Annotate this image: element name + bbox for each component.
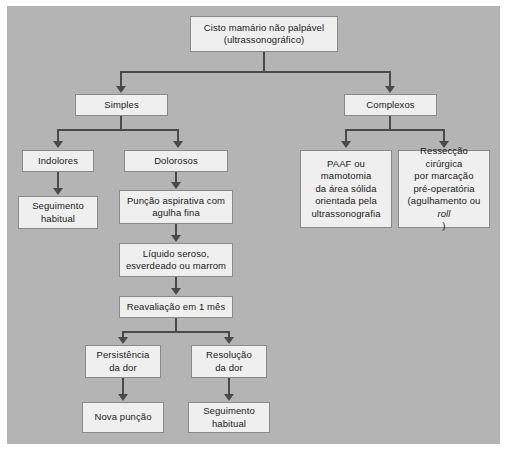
node-line: Líquido seroso, bbox=[123, 248, 229, 261]
node-line: Indolores bbox=[26, 155, 90, 168]
connector-reavaliacao-bus bbox=[122, 331, 230, 333]
node-line: Resolução bbox=[195, 349, 263, 362]
node-persistencia-da-dor: Persistência da dor bbox=[85, 345, 161, 378]
flowchart-diagram: Cisto mamário não palpável (ultrassonogr… bbox=[0, 0, 507, 451]
node-line: ultrassonografia bbox=[304, 208, 388, 221]
connector-simples-bus bbox=[57, 129, 179, 131]
arrowhead-indolores bbox=[53, 141, 63, 148]
connector-root-bus bbox=[120, 71, 391, 73]
node-line: Reavaliação em 1 mês bbox=[123, 301, 229, 314]
node-simples: Simples bbox=[75, 94, 168, 116]
node-nova-puncao: Nova punção bbox=[82, 402, 164, 433]
connector-root-stem bbox=[263, 52, 265, 72]
node-complexos: Complexos bbox=[344, 94, 437, 116]
node-line: habitual bbox=[192, 418, 266, 431]
roll-italic: roll bbox=[437, 208, 450, 219]
node-line: da dor bbox=[89, 362, 157, 375]
node-line: Cisto mamário não palpável bbox=[194, 22, 334, 35]
node-liquido-seroso: Líquido seroso, esverdeado ou marrom bbox=[119, 243, 233, 277]
connector-root-to-complexos bbox=[389, 71, 391, 87]
roll-suffix: ) bbox=[402, 220, 486, 233]
connector-simples-stem bbox=[120, 116, 122, 130]
connector-persistencia-to-nova-puncao bbox=[122, 378, 124, 395]
node-line-roll: (agulhamento ou roll) bbox=[402, 195, 486, 233]
connector-complexos-stem bbox=[389, 116, 391, 130]
node-line: Complexos bbox=[348, 99, 433, 112]
node-dolorosos: Dolorosos bbox=[124, 150, 228, 172]
arrowhead-complexos bbox=[385, 86, 395, 93]
node-line: PAAF ou mamotomia bbox=[304, 158, 388, 183]
node-paaf-ou-mamotomia: PAAF ou mamotomia da área sólida orienta… bbox=[300, 150, 392, 228]
arrowhead-puncao bbox=[171, 182, 181, 189]
node-line: Persistência bbox=[89, 349, 157, 362]
node-resseccao-cirurgica: Ressecção cirúrgica por marcação pré-ope… bbox=[398, 150, 490, 228]
node-line: da dor bbox=[195, 362, 263, 375]
arrowhead-liquido bbox=[171, 235, 181, 242]
arrowhead-persistencia bbox=[118, 337, 128, 344]
connector-reavaliacao-stem bbox=[175, 318, 177, 332]
arrowhead-seguimento-habitual-2 bbox=[224, 394, 234, 401]
node-line: pré-operatória bbox=[402, 183, 486, 196]
node-line: habitual bbox=[22, 213, 94, 226]
roll-prefix: (agulhamento ou bbox=[402, 195, 486, 208]
arrowhead-seguimento-habitual-1 bbox=[53, 188, 63, 195]
node-line: (ultrassonográfico) bbox=[194, 34, 334, 47]
arrowhead-reavaliacao bbox=[171, 288, 181, 295]
arrowhead-resolucao bbox=[224, 337, 234, 344]
node-line: da área sólida bbox=[304, 183, 388, 196]
arrowhead-dolorosos bbox=[173, 141, 183, 148]
node-line: por marcação bbox=[402, 170, 486, 183]
node-line: esverdeado ou marrom bbox=[123, 260, 229, 273]
arrowhead-nova-puncao bbox=[118, 394, 128, 401]
node-line: Punção aspirativa com bbox=[123, 195, 229, 208]
node-seguimento-habitual-resolucao: Seguimento habitual bbox=[188, 402, 270, 433]
node-line: Seguimento bbox=[22, 200, 94, 213]
node-resolucao-da-dor: Resolução da dor bbox=[191, 345, 267, 378]
node-indolores: Indolores bbox=[22, 150, 94, 172]
arrowhead-simples bbox=[116, 86, 126, 93]
node-puncao-aspirativa-agulha-fina: Punção aspirativa com agulha fina bbox=[119, 190, 233, 224]
node-line: agulha fina bbox=[123, 207, 229, 220]
connector-complexos-bus bbox=[345, 129, 444, 131]
arrowhead-resseccao bbox=[439, 141, 449, 148]
node-line: Dolorosos bbox=[128, 155, 224, 168]
node-cisto-mamario-nao-palpavel: Cisto mamário não palpável (ultrassonogr… bbox=[190, 16, 338, 52]
node-line: Ressecção cirúrgica bbox=[402, 145, 486, 170]
node-reavaliacao-1-mes: Reavaliação em 1 mês bbox=[119, 296, 233, 318]
node-line: Seguimento bbox=[192, 405, 266, 418]
node-line: Nova punção bbox=[86, 411, 160, 424]
node-line: orientada pela bbox=[304, 195, 388, 208]
connector-root-to-simples bbox=[120, 71, 122, 87]
arrowhead-paaf bbox=[341, 141, 351, 148]
node-line: Simples bbox=[79, 99, 164, 112]
connector-resolucao-to-seguimento bbox=[228, 378, 230, 395]
node-seguimento-habitual-indolores: Seguimento habitual bbox=[18, 196, 98, 229]
connector-indolores-to-seguimento bbox=[57, 172, 59, 189]
